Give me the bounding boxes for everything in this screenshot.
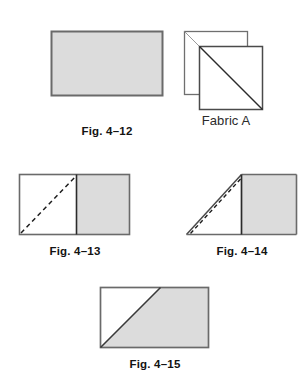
fig-4-14-graphic	[179, 167, 305, 243]
fig-4-14-right-gray	[242, 175, 297, 235]
fabric-rectangle	[52, 32, 163, 96]
caption-fig-4-13: Fig. 4–13	[12, 245, 138, 257]
diagram-sheet: Fig. 4–12 Fabric A Fig. 4–13	[0, 0, 308, 386]
figure-fig-4-12	[44, 24, 170, 104]
fig-4-12-graphic	[44, 24, 170, 104]
figure-fig-4-14	[179, 167, 305, 243]
fig-4-13-graphic	[12, 167, 138, 243]
figure-fig-4-13	[12, 167, 138, 243]
figure-fig-4-15	[93, 280, 217, 356]
fabric-a-graphic	[178, 24, 274, 118]
caption-fig-4-15: Fig. 4–15	[93, 358, 217, 370]
label-fabric-a: Fabric A	[178, 113, 274, 128]
fig-4-15-graphic	[93, 280, 217, 356]
caption-fig-4-14: Fig. 4–14	[179, 245, 305, 257]
figure-fabric-a	[178, 24, 274, 118]
right-half-gray	[77, 175, 130, 235]
caption-fig-4-12: Fig. 4–12	[44, 125, 170, 137]
